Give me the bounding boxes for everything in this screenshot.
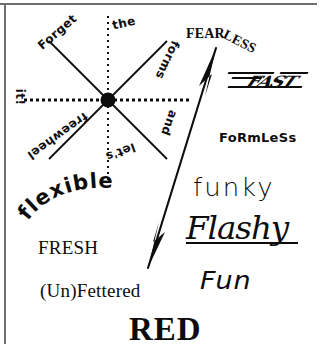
word-fearless-tail: LESS (220, 27, 259, 57)
word-fearless: FEARLESS (186, 26, 259, 42)
word-fresh: FRESH (38, 238, 98, 257)
word-flashy-text: Flashy (186, 212, 304, 245)
word-fast-text: FAST (244, 72, 300, 90)
page-title: RED (129, 313, 202, 346)
word-fast: FAST (228, 66, 308, 92)
word-formless: FoRmLeSs (219, 131, 296, 144)
wheel-label-it: it! (14, 89, 26, 106)
left-rule (4, 4, 6, 344)
top-rule (0, 3, 317, 5)
word-funky: funky (193, 176, 275, 200)
word-unfettered: (Un)Fettered (40, 281, 141, 300)
wheel-spoke-nw (49, 41, 108, 100)
poster-canvas: Forget the forms and let's freewheel it!… (0, 0, 328, 355)
word-flashy: Flashy (186, 212, 298, 244)
word-flexible: flexible (24, 182, 154, 237)
arrow-head-top (199, 48, 216, 96)
wheel-hub (101, 93, 116, 108)
word-fearless-head: FEAR (186, 26, 225, 42)
word-fun: Fun (200, 267, 252, 293)
